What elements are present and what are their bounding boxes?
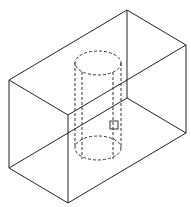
box-cylinder-diagram — [0, 0, 191, 207]
box-edges — [9, 10, 186, 203]
square-marker — [110, 121, 118, 129]
cylinder-top — [75, 51, 121, 75]
